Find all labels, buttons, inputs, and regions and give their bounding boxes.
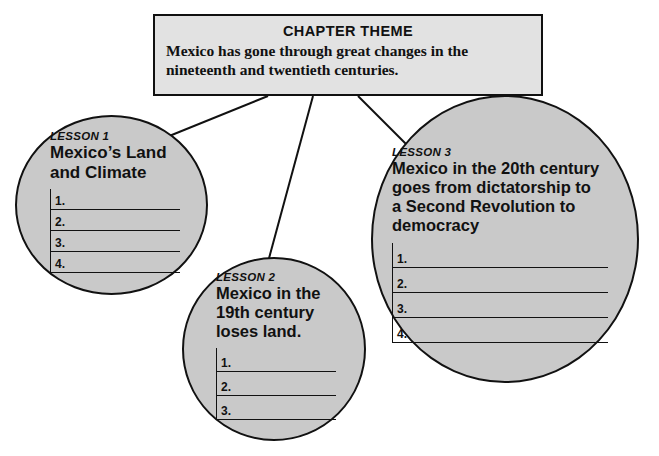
answer-line-number: 3. <box>397 302 407 316</box>
lesson-3-title: Mexico in the 20th century goes from dic… <box>392 159 608 235</box>
lesson-2-title-line: loses land. <box>216 322 336 341</box>
answer-line-row[interactable]: 1. <box>217 348 336 372</box>
answer-line-number: 1. <box>221 356 231 370</box>
answer-line-number: 3. <box>221 404 231 418</box>
connector-to-lesson-2 <box>268 96 313 262</box>
lesson-1-circle: LESSON 1 Mexico’s Land and Climate 1. 2.… <box>15 115 208 295</box>
answer-line-number: 4. <box>397 327 407 341</box>
answer-line-row[interactable]: 3. <box>51 231 180 252</box>
answer-line-number: 2. <box>397 277 407 291</box>
lesson-3-title-line: goes from dictatorship to <box>392 178 608 197</box>
lesson-3-title-line: Mexico in the 20th century <box>392 159 608 178</box>
chapter-theme-box: CHAPTER THEME Mexico has gone through gr… <box>153 14 543 96</box>
lesson-2-circle: LESSON 2 Mexico in the 19th century lose… <box>182 257 366 441</box>
lesson-2-content: LESSON 2 Mexico in the 19th century lose… <box>216 271 336 420</box>
answer-line-row[interactable]: 2. <box>51 210 180 231</box>
lesson-3-content: LESSON 3 Mexico in the 20th century goes… <box>392 146 608 343</box>
answer-line-row[interactable]: 4. <box>393 318 608 343</box>
lesson-1-answer-lines: 1. 2. 3. 4. <box>50 189 180 273</box>
answer-line-number: 1. <box>55 194 65 208</box>
lesson-2-title-line: 19th century <box>216 303 336 322</box>
answer-line-number: 2. <box>55 215 65 229</box>
answer-line-number: 4. <box>55 257 65 271</box>
answer-line-number: 2. <box>221 380 231 394</box>
answer-line-row[interactable]: 3. <box>393 293 608 318</box>
lesson-1-title-line: Mexico’s Land <box>50 143 180 163</box>
lesson-2-answer-lines: 1. 2. 3. <box>216 348 336 420</box>
lesson-3-answer-lines: 1. 2. 3. 4. <box>392 243 608 343</box>
answer-line-row[interactable]: 1. <box>393 243 608 268</box>
answer-line-row[interactable]: 3. <box>217 396 336 420</box>
graphic-organizer-canvas: CHAPTER THEME Mexico has gone through gr… <box>0 0 659 456</box>
lesson-3-circle: LESSON 3 Mexico in the 20th century goes… <box>371 95 639 383</box>
lesson-2-title-line: Mexico in the <box>216 284 336 303</box>
lesson-1-title-line: and Climate <box>50 163 180 183</box>
lesson-3-title-line: a Second Revolution to <box>392 197 608 216</box>
lesson-3-title-line: democracy <box>392 216 608 235</box>
answer-line-number: 1. <box>397 252 407 266</box>
answer-line-row[interactable]: 2. <box>217 372 336 396</box>
lesson-2-label: LESSON 2 <box>216 271 336 283</box>
lesson-1-content: LESSON 1 Mexico’s Land and Climate 1. 2.… <box>50 130 180 273</box>
chapter-theme-text: Mexico has gone through great changes in… <box>155 41 541 79</box>
lesson-3-label: LESSON 3 <box>392 146 608 158</box>
answer-line-row[interactable]: 1. <box>51 189 180 210</box>
lesson-2-title: Mexico in the 19th century loses land. <box>216 284 336 341</box>
answer-line-row[interactable]: 4. <box>51 252 180 273</box>
connector-to-lesson-3 <box>358 96 412 150</box>
lesson-1-label: LESSON 1 <box>50 130 180 142</box>
answer-line-number: 3. <box>55 236 65 250</box>
chapter-theme-heading: CHAPTER THEME <box>155 23 541 39</box>
answer-line-row[interactable]: 2. <box>393 268 608 293</box>
lesson-1-title: Mexico’s Land and Climate <box>50 143 180 182</box>
